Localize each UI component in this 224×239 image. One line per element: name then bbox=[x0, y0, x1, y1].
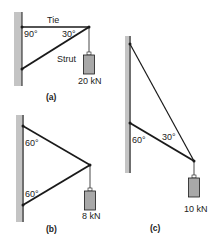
angle-b-bottom: 60° bbox=[25, 189, 39, 199]
weight-b bbox=[85, 191, 96, 210]
caption-a: (a) bbox=[46, 92, 57, 102]
load-c-label: 10 kN bbox=[184, 204, 208, 214]
figure-a: Tie Strut 90° 30° 20 kN (a) bbox=[14, 12, 102, 102]
load-b-label: 8 kN bbox=[82, 211, 101, 221]
strut-label: Strut bbox=[57, 54, 77, 64]
joint-c-middle bbox=[129, 122, 132, 125]
figure-b: 60° 60° 8 kN (b) bbox=[16, 115, 101, 234]
caption-b: (b) bbox=[46, 224, 57, 234]
wall-a bbox=[14, 12, 22, 86]
hook-b bbox=[88, 188, 92, 191]
joint-a-bottom bbox=[21, 68, 24, 71]
joint-b-bottom bbox=[22, 204, 25, 207]
caption-c: (c) bbox=[150, 223, 161, 233]
load-a-label: 20 kN bbox=[78, 76, 102, 86]
angle-b-top: 60° bbox=[25, 138, 39, 148]
figure-c: 60° 30° 10 kN (c) bbox=[125, 36, 208, 233]
angle-a-30: 30° bbox=[62, 29, 76, 39]
hook-a bbox=[87, 52, 91, 55]
lower-member-b bbox=[23, 165, 90, 205]
angle-c-60: 60° bbox=[132, 135, 146, 145]
angle-c-30: 30° bbox=[162, 132, 176, 142]
angle-a-90: 90° bbox=[24, 29, 38, 39]
weight-c bbox=[189, 178, 200, 197]
joint-b-top bbox=[22, 125, 25, 128]
weight-a bbox=[84, 55, 95, 74]
frame-diagrams: Tie Strut 90° 30° 20 kN (a) 60° 60° 8 kN… bbox=[0, 0, 224, 239]
hook-c bbox=[192, 175, 196, 178]
joint-c-top bbox=[129, 43, 132, 46]
tie-label: Tie bbox=[47, 15, 59, 25]
